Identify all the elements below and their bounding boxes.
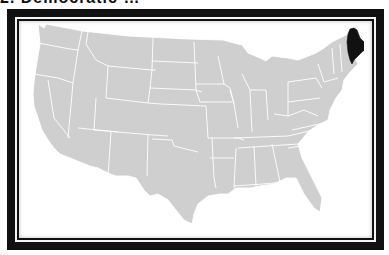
us-map — [19, 21, 364, 234]
state-maine — [347, 28, 364, 64]
us-landmass — [33, 24, 358, 224]
frame-inner-border — [17, 19, 374, 240]
frame-matte — [15, 17, 376, 242]
map-canvas — [19, 21, 372, 238]
page-title: 2. Democratic … — [0, 0, 389, 3]
contiguous-us — [33, 24, 358, 224]
map-frame — [7, 9, 384, 250]
